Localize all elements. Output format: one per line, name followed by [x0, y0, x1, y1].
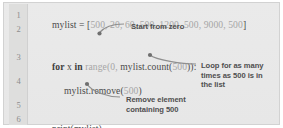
annotation-loop-count: Loop for as many times as 500 is in the …: [201, 61, 264, 90]
line-number: 4: [9, 76, 28, 86]
code-segment: x: [65, 61, 75, 72]
code-segment-literal: 500: [172, 61, 187, 72]
annotation-start-from-zero: Start from zero: [131, 22, 184, 32]
code-segment: mylist = [: [52, 19, 90, 30]
line-number: 2: [9, 24, 28, 34]
code-segment: mylist.remove(: [64, 85, 124, 96]
line-number: 1: [9, 10, 28, 20]
code-segment: print(mylist): [52, 123, 102, 128]
code-keyword-for: for: [52, 61, 65, 72]
code-segment: mylist.count(: [118, 61, 173, 72]
line-number: 3: [9, 52, 28, 62]
code-segment-range: range(0,: [85, 61, 118, 72]
code-segment: )):: [187, 61, 196, 72]
code-keyword-in: in: [74, 61, 82, 72]
code-line-6: print(mylist): [32, 112, 102, 128]
code-segment: ]: [243, 19, 246, 30]
line-number: 6: [9, 114, 28, 124]
line-number: 5: [9, 100, 28, 110]
code-panel: 1 2 3 4 5 6 mylist = [500, 20, 60, 500, …: [3, 2, 280, 125]
code-annotation-figure: 1 2 3 4 5 6 mylist = [500, 20, 60, 500, …: [0, 0, 283, 128]
annotation-remove-element: Remove element containing 500: [126, 95, 186, 114]
line-number-gutter: 1 2 3 4 5 6: [9, 4, 28, 125]
